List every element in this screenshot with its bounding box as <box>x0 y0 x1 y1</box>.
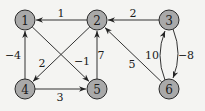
node-label: 6 <box>165 83 173 97</box>
node-3: 3 <box>159 10 179 30</box>
node-label: 2 <box>93 14 101 28</box>
node-label: 3 <box>165 14 173 28</box>
edge-weight-1-5: −1 <box>74 55 90 68</box>
edge-weight-5-2: 7 <box>98 49 105 62</box>
node-6: 6 <box>159 79 179 99</box>
edge-weight-6-3: 10 <box>145 49 159 62</box>
graph-diagram: 12−42−173510−8 123456 <box>0 0 205 111</box>
edge-weight-2-4: 2 <box>39 57 46 70</box>
edge-weight-6-2: 5 <box>129 58 136 71</box>
edge-weight-2-1: 1 <box>58 7 65 20</box>
node-label: 4 <box>21 83 29 97</box>
edge-weight-4-1: −4 <box>5 49 21 62</box>
node-5: 5 <box>87 79 107 99</box>
node-1: 1 <box>15 10 35 30</box>
edge-6-to-3 <box>160 31 165 80</box>
node-4: 4 <box>15 79 35 99</box>
edge-weight-3-2: 2 <box>130 7 137 20</box>
edge-weight-4-5: 3 <box>57 91 64 104</box>
node-label: 5 <box>93 83 101 97</box>
node-label: 1 <box>21 14 29 28</box>
node-2: 2 <box>87 10 107 30</box>
edge-weight-3-6: −8 <box>178 49 194 62</box>
